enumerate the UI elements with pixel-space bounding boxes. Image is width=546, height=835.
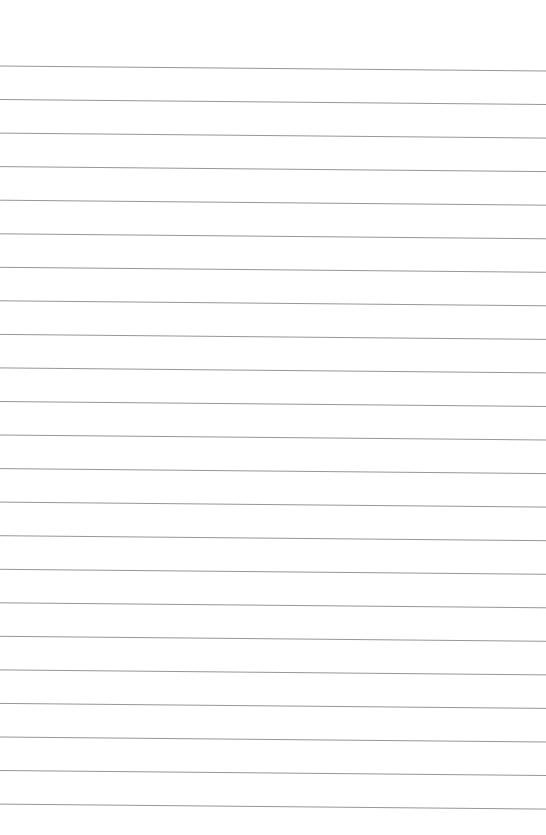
ruled-line <box>0 100 546 105</box>
ruled-line <box>0 703 546 708</box>
ruled-line <box>0 536 546 541</box>
ruled-line <box>0 402 546 407</box>
ruled-line <box>0 737 546 742</box>
ruled-line <box>0 234 546 239</box>
ruled-paper-page <box>0 0 546 835</box>
ruled-line <box>0 435 546 440</box>
ruled-lines <box>0 0 546 835</box>
ruled-line <box>0 502 546 507</box>
ruled-line <box>0 334 546 339</box>
ruled-line <box>0 569 546 574</box>
ruled-line <box>0 636 546 641</box>
ruled-line <box>0 133 546 138</box>
ruled-line <box>0 167 546 172</box>
ruled-line <box>0 804 546 809</box>
ruled-line <box>0 200 546 205</box>
ruled-line <box>0 771 546 776</box>
ruled-line <box>0 603 546 608</box>
ruled-line <box>0 301 546 306</box>
ruled-line <box>0 368 546 373</box>
ruled-line <box>0 66 546 71</box>
ruled-line <box>0 469 546 474</box>
ruled-line <box>0 670 546 675</box>
ruled-line <box>0 267 546 272</box>
